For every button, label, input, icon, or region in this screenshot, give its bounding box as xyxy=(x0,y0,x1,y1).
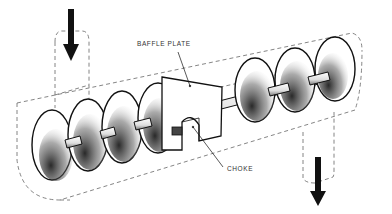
baffle-plate-label: BAFFLE PLATE xyxy=(137,40,191,47)
flight-7 xyxy=(315,37,355,101)
outlet-arrow-icon xyxy=(310,157,326,206)
choke-label: CHOKE xyxy=(227,165,253,172)
baffle-plate xyxy=(162,77,222,150)
choke xyxy=(172,127,182,135)
screw-conveyor-diagram xyxy=(0,0,392,214)
inlet-arrow-icon xyxy=(63,9,79,61)
